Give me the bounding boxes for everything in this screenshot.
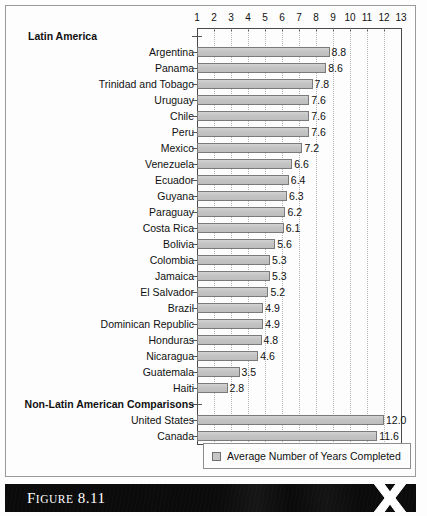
bar [197,303,263,313]
bar [197,207,285,217]
bar-value-label: 5.3 [272,254,287,266]
section-header-row: Non-Latin American Comparisons [6,396,417,412]
category-label: Peru [172,126,194,138]
table-row: Jamaica5.3 [6,268,417,284]
caption-number: 8.11 [73,490,105,506]
bar [197,47,330,57]
bar-value-label: 5.3 [272,270,287,282]
category-label: United States [131,414,194,426]
bar-value-label: 6.6 [294,158,309,170]
bar-value-label: 4.9 [265,302,280,314]
bar-value-label: 2.8 [230,382,245,394]
legend-swatch-icon [212,452,221,461]
bar [197,335,262,345]
bar-value-label: 7.6 [311,94,326,106]
bar-value-label: 6.1 [286,222,301,234]
category-label: Panama [155,62,194,74]
category-label: Guatemala [143,366,194,378]
table-row: Haiti2.8 [6,380,417,396]
table-row: Honduras4.8 [6,332,417,348]
bar-value-label: 7.6 [311,110,326,122]
section-header-label: Latin America [28,30,97,42]
legend-label: Average Number of Years Completed [227,450,401,462]
bar-value-label: 8.6 [328,62,343,74]
table-row: Panama8.6 [6,60,417,76]
category-label: Brazil [168,302,194,314]
category-label: Jamaica [155,270,194,282]
figure-caption-bar: FIGURE 8.11 [5,484,416,512]
category-label: Venezuela [145,158,194,170]
bar-value-label: 12.0 [386,414,406,426]
category-label: Mexico [161,142,194,154]
table-row: Dominican Republic4.9 [6,316,417,332]
table-row: Ecuador6.4 [6,172,417,188]
bar [197,143,302,153]
bar [197,415,384,425]
bar [197,63,326,73]
category-label: Colombia [150,254,194,266]
table-row: Bolivia5.6 [6,236,417,252]
bar-value-label: 5.2 [270,286,285,298]
bar-value-label: 6.2 [287,206,302,218]
category-label: Bolivia [163,238,194,250]
bar-value-label: 11.6 [379,430,399,442]
bar [197,351,258,361]
category-label: Paraguay [149,206,194,218]
table-row: Brazil4.9 [6,300,417,316]
bar [197,95,309,105]
bar [197,287,268,297]
bar [197,255,270,265]
chart-panel: 12345678910111213 Latin AmericaArgentina… [5,5,416,477]
table-row: El Salvador5.2 [6,284,417,300]
bar-value-label: 7.8 [315,78,330,90]
category-label: Ecuador [155,174,194,186]
bar-value-label: 6.3 [289,190,304,202]
row-tick [192,36,202,37]
bar [197,111,309,121]
table-row: Costa Rica6.1 [6,220,417,236]
bar-value-label: 3.5 [242,366,257,378]
bar [197,79,313,89]
bar-value-label: 8.8 [332,46,347,58]
section-header-label: Non-Latin American Comparisons [25,398,194,410]
category-label: Argentina [149,46,194,58]
bar-value-label: 7.6 [311,126,326,138]
table-row: Canada11.6 [6,428,417,444]
category-label: Uruguay [154,94,194,106]
category-label: Canada [157,430,194,442]
category-label: Chile [170,110,194,122]
figure-caption-text: FIGURE 8.11 [27,489,105,509]
bar-value-label: 4.8 [264,334,279,346]
category-label: El Salvador [140,286,194,298]
table-row: Argentina8.8 [6,44,417,60]
figure-container: 12345678910111213 Latin AmericaArgentina… [0,0,427,516]
table-row: Guatemala3.5 [6,364,417,380]
bar-value-label: 5.6 [277,238,292,250]
bar [197,239,275,249]
category-label: Costa Rica [143,222,194,234]
bar-value-label: 7.2 [304,142,319,154]
bar [197,431,377,441]
category-label: Nicaragua [146,350,194,362]
table-row: Trinidad and Tobago7.8 [6,76,417,92]
bar [197,367,240,377]
bar-value-label: 6.4 [291,174,306,186]
bar [197,383,228,393]
row-tick [192,404,202,405]
category-label: Haiti [173,382,194,394]
bar [197,271,270,281]
chart-legend: Average Number of Years Completed [203,443,411,469]
bar-value-label: 4.6 [260,350,275,362]
table-row: Chile7.6 [6,108,417,124]
table-row: United States12.0 [6,412,417,428]
table-row: Mexico7.2 [6,140,417,156]
table-row: Peru7.6 [6,124,417,140]
x-logo-icon [368,484,412,512]
table-row: Paraguay6.2 [6,204,417,220]
bar [197,175,289,185]
bar [197,159,292,169]
bar [197,319,263,329]
caption-smallcaps: IGURE [36,493,74,505]
category-label: Guyana [157,190,194,202]
table-row: Venezuela6.6 [6,156,417,172]
